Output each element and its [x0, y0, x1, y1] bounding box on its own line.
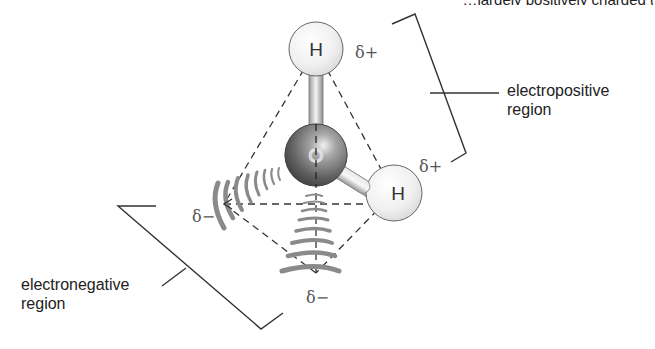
delta-plus-right: δ+: [419, 157, 442, 176]
electropositive-line2: region: [507, 100, 609, 119]
electronegative-line1: electronegative: [21, 275, 130, 294]
delta-plus-top: δ+: [355, 43, 378, 62]
delta-minus-left: δ−: [192, 207, 215, 226]
electropositive-bracket: [392, 14, 499, 162]
electropositive-line1: electropositive: [507, 81, 609, 100]
electropositive-region-label: electropositive region: [507, 81, 609, 119]
atom-h-top: H: [289, 22, 343, 76]
h-right-symbol: H: [391, 183, 405, 204]
atom-h-right: H: [366, 165, 422, 221]
electronegative-region-label: electronegative region: [21, 275, 130, 313]
h-top-symbol: H: [309, 39, 323, 60]
lone-pair-bottom-waves: [282, 195, 339, 272]
electronegative-line2: region: [21, 294, 130, 313]
delta-minus-bottom: δ−: [306, 288, 329, 307]
lone-pair-left-waves: [215, 168, 280, 228]
bond-o-h-top: [309, 70, 323, 130]
